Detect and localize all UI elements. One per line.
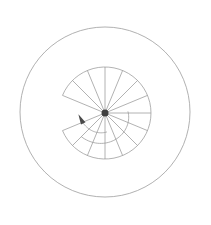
spoke-line <box>105 113 138 146</box>
spiral-web-diagram <box>0 0 211 225</box>
spiral-turn-inner <box>82 121 107 133</box>
spoke-line <box>105 80 138 113</box>
direction-arrow-icon <box>78 114 85 124</box>
hub-dot <box>102 110 109 117</box>
spoke-line <box>72 80 105 113</box>
figure-canvas <box>0 0 211 225</box>
